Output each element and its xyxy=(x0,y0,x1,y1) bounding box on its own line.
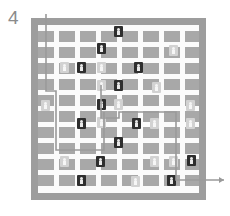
routing-path-segment xyxy=(101,85,224,180)
routing-path-group xyxy=(46,14,224,183)
routing-exit-arrow-icon xyxy=(219,177,224,183)
figure-canvas: 4 xyxy=(0,0,230,216)
routing-path-segment xyxy=(46,14,104,150)
routing-path-overlay xyxy=(0,0,230,216)
